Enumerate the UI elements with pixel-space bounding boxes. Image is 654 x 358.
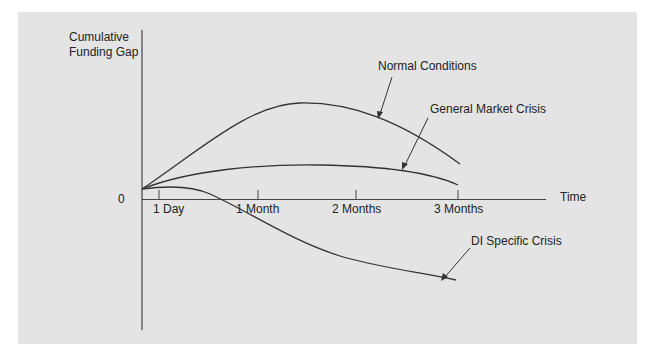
arrow-di-specific-crisis (444, 248, 470, 278)
tick-label-2-months: 2 Months (332, 202, 381, 216)
arrow-general-market-crisis (405, 118, 428, 165)
tick-label-1-day: 1 Day (153, 202, 184, 216)
arrowhead-general-icon (402, 162, 408, 170)
origin-zero-label: 0 (118, 192, 125, 206)
arrow-normal-conditions (380, 77, 392, 114)
y-axis-label: Cumulative Funding Gap (69, 30, 149, 60)
tick-label-3-months: 3 Months (434, 202, 483, 216)
tick-label-1-month: 1 Month (236, 202, 279, 216)
x-axis-label: Time (560, 190, 586, 204)
annotation-di-specific-crisis: DI Specific Crisis (471, 234, 562, 248)
series-general-market-crisis (142, 165, 458, 189)
series-normal-conditions (142, 103, 460, 189)
annotation-normal-conditions: Normal Conditions (378, 59, 477, 73)
annotation-general-market-crisis: General Market Crisis (430, 102, 546, 116)
series-di-specific-crisis (142, 187, 456, 280)
